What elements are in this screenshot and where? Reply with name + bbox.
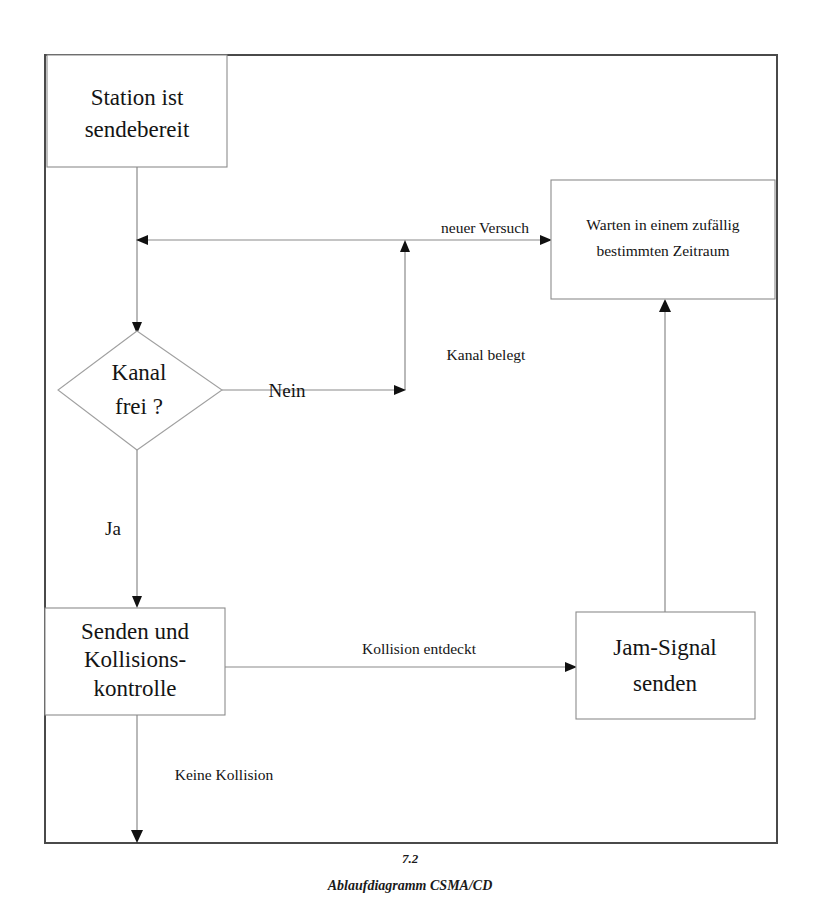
figure-number: 7.2 <box>402 851 419 866</box>
node-start-line2: sendebereit <box>85 117 190 142</box>
arrowhead-keine-kollision <box>131 830 143 843</box>
edge-label-ja: Ja <box>105 518 121 539</box>
node-kanal-frei-decision[interactable] <box>58 331 222 450</box>
node-jam-line1: Jam-Signal <box>613 635 717 660</box>
node-warten-zeitraum[interactable] <box>551 180 775 299</box>
node-wait-line2: bestimmten Zeitraum <box>596 242 729 259</box>
edge-label-kollision-entdeckt: Kollision entdeckt <box>362 640 477 657</box>
node-decision-line1: Kanal <box>112 360 167 385</box>
edge-label-nein: Nein <box>269 380 306 401</box>
flowchart-diagram: Station ist sendebereit Warten in einem … <box>0 0 819 907</box>
edge-label-keine-kollision: Keine Kollision <box>175 766 274 783</box>
node-decision-line2: frei ? <box>115 394 163 419</box>
node-jam-signal-senden[interactable] <box>576 612 755 719</box>
node-station-ist-sendebereit[interactable] <box>47 55 227 167</box>
node-send-line1: Senden und <box>81 619 189 644</box>
arrowhead-neuer-versuch <box>540 235 552 245</box>
arrowhead-kollision-entdeckt <box>565 662 577 672</box>
arrowhead-retry-left <box>136 235 148 245</box>
diagram-frame <box>45 55 777 843</box>
arrowhead-jam-to-wait <box>659 299 671 312</box>
edge-label-kanal-belegt: Kanal belegt <box>447 346 526 363</box>
node-start-line1: Station ist <box>91 85 184 110</box>
arrowhead-nein-right <box>394 385 406 395</box>
arrowhead-ja <box>132 596 142 608</box>
node-send-line2: Kollisions- <box>84 647 186 672</box>
node-wait-line1: Warten in einem zufällig <box>586 216 740 233</box>
arrowhead-nein-up <box>400 240 410 252</box>
edge-label-neuer-versuch: neuer Versuch <box>441 219 529 236</box>
figure-caption: Ablaufdiagramm CSMA/CD <box>327 878 493 893</box>
node-send-line3: kontrolle <box>93 676 176 701</box>
node-jam-line2: senden <box>633 671 697 696</box>
